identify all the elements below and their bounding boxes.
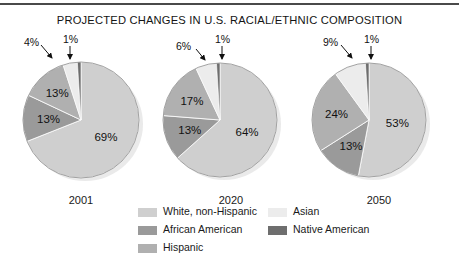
legend-label-hispanic: Hispanic bbox=[163, 241, 203, 254]
page-title: PROJECTED CHANGES IN U.S. RACIAL/ETHNIC … bbox=[0, 14, 459, 26]
pie-slice-label: 64% bbox=[236, 126, 259, 138]
legend-swatch-asian bbox=[268, 208, 287, 217]
pie-chart-2050: 53%13%24% 2050 bbox=[304, 46, 454, 206]
legend-swatch-african-american bbox=[138, 226, 157, 235]
year-label-2001: 2001 bbox=[6, 194, 156, 206]
legend-swatch-native-american bbox=[268, 226, 287, 235]
pie-slice-label: 13% bbox=[37, 113, 60, 125]
callout-native-american-2020: 1% bbox=[215, 33, 230, 45]
callout-asian-2001: 4% bbox=[24, 36, 39, 48]
callout-asian-2020: 6% bbox=[176, 40, 191, 52]
legend-label-african-american: African American bbox=[163, 223, 242, 236]
callout-native-american-2050: 1% bbox=[364, 33, 379, 45]
legend-label-native-american: Native American bbox=[293, 223, 369, 236]
legend: White, non-Hispanic African American His… bbox=[138, 205, 438, 265]
pie-slice-label: 69% bbox=[94, 131, 117, 143]
pie-slice-label: 24% bbox=[325, 108, 348, 120]
pie-slice-label: 13% bbox=[46, 87, 69, 99]
pie-chart-2020: 64%13%17% 2020 bbox=[156, 46, 306, 206]
legend-label-asian: Asian bbox=[293, 205, 319, 218]
legend-swatch-white-non-hispanic bbox=[138, 208, 157, 217]
callout-native-american-2001: 1% bbox=[63, 33, 78, 45]
pie-chart-2001: 69%13%13% 2001 bbox=[6, 46, 156, 206]
pie-svg-2001: 69%13%13% bbox=[6, 46, 156, 186]
pie-slice-label: 13% bbox=[340, 140, 363, 152]
pie-slice-label: 17% bbox=[180, 95, 203, 107]
legend-swatch-hispanic bbox=[138, 244, 157, 253]
pie-svg-2050: 53%13%24% bbox=[304, 46, 454, 186]
top-divider-rule bbox=[0, 3, 459, 5]
legend-label-white-non-hispanic: White, non-Hispanic bbox=[163, 205, 257, 218]
callout-asian-2050: 9% bbox=[323, 36, 338, 48]
pie-svg-2020: 64%13%17% bbox=[156, 46, 306, 186]
pie-slice-label: 13% bbox=[178, 124, 201, 136]
pie-slice-label: 53% bbox=[386, 117, 409, 129]
